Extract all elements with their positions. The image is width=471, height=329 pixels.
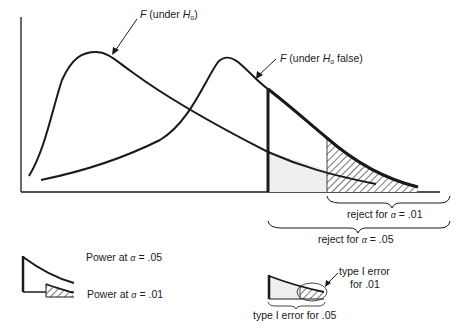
type1-05-label: type I error for .05 — [253, 310, 336, 321]
axes — [21, 17, 440, 192]
type1-01-label-line2: for .01 — [350, 279, 380, 290]
h0-curve — [29, 52, 376, 184]
h0-false-label-arrow — [256, 59, 276, 79]
power-01-legend-label: Power at α = .01 — [87, 289, 163, 300]
power-05-legend-label: Power at α = .05 — [86, 252, 162, 263]
reject-01-brace — [327, 196, 450, 208]
type1-error-legend-icon — [268, 273, 338, 309]
h0-label-arrow — [112, 19, 137, 55]
power-01-legend-icon — [46, 284, 74, 297]
power-diagram — [0, 0, 471, 329]
type1-01-label-line1: type I error — [339, 266, 390, 277]
h0-curve-label: F (under Ho) — [140, 9, 198, 21]
reject-05-label: reject for α = .05 — [318, 234, 393, 245]
type1-error-05-region — [268, 152, 327, 192]
type1-05-brace — [268, 302, 325, 309]
reject-01-label: reject for α = .01 — [347, 209, 422, 220]
reject-05-brace — [268, 221, 450, 233]
h0-false-curve-label: F (under Ho false) — [280, 53, 363, 65]
